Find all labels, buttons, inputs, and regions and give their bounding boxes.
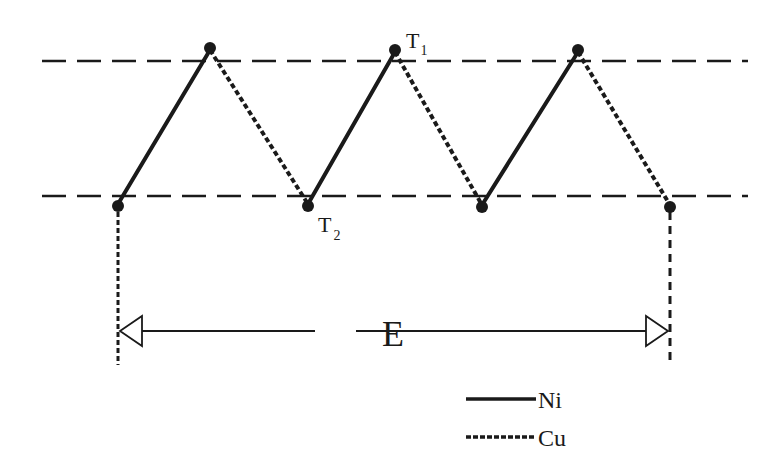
legend-cu-label: Cu (538, 425, 566, 451)
thermocouple-zigzag-diagram: T1 T2 E Ni Cu (0, 0, 780, 469)
junction-points (112, 42, 676, 213)
legend-ni-label: Ni (538, 387, 562, 413)
cu-wire-segments (210, 50, 670, 205)
left-arrowhead-icon (120, 316, 142, 346)
dimension-label-e: E (382, 314, 404, 354)
right-arrowhead-icon (646, 316, 668, 346)
legend: Ni Cu (466, 387, 566, 451)
t2-label: T2 (318, 212, 340, 243)
t1-label: T1 (406, 28, 427, 58)
ni-wire-segments (118, 50, 578, 205)
